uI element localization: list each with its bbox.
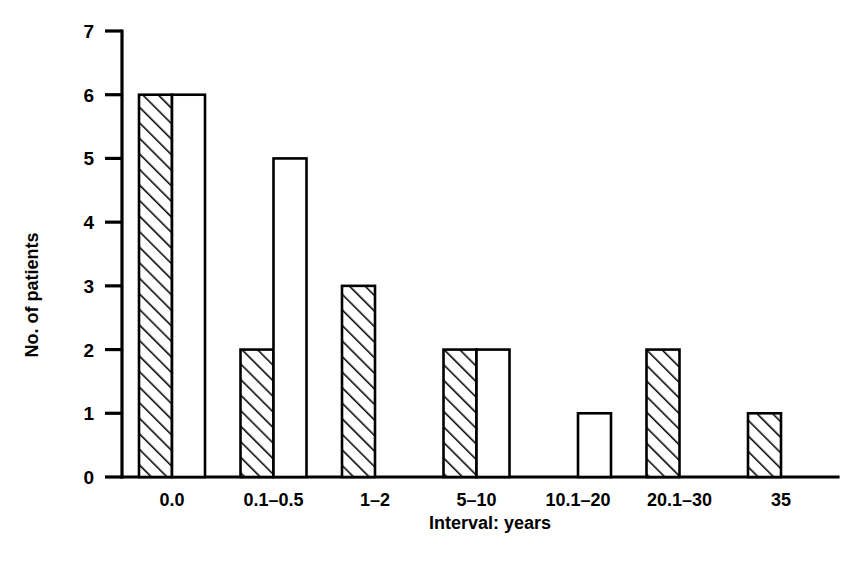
- bar-hatched: [748, 413, 781, 477]
- bar-open: [172, 95, 205, 477]
- x-tick-label: 1–2: [360, 490, 390, 510]
- y-tick-label: 3: [83, 276, 94, 297]
- bar-hatched: [647, 350, 680, 477]
- y-axis-tick-labels: 01234567: [83, 21, 94, 488]
- bar-hatched: [444, 350, 477, 477]
- y-tick-label: 7: [83, 21, 94, 42]
- chart-figure: 01234567 0.00.1–0.51–25–1010.1–2020.1–30…: [0, 0, 860, 561]
- y-tick-label: 4: [83, 212, 94, 233]
- y-tick-label: 5: [83, 148, 94, 169]
- bar-open: [578, 413, 611, 477]
- x-tick-label: 20.1–30: [647, 490, 712, 510]
- y-axis-ticks: [105, 31, 122, 477]
- bar-hatched: [139, 95, 172, 477]
- x-tick-label: 35: [771, 490, 791, 510]
- y-tick-label: 0: [83, 467, 94, 488]
- bars-layer: [139, 95, 781, 477]
- bar-hatched: [342, 286, 375, 477]
- bar-chart-canvas: 01234567 0.00.1–0.51–25–1010.1–2020.1–30…: [0, 0, 860, 561]
- bar-hatched: [241, 350, 274, 477]
- x-tick-label: 10.1–20: [545, 490, 610, 510]
- x-axis-tick-labels: 0.00.1–0.51–25–1010.1–2020.1–3035: [159, 490, 791, 510]
- x-axis-title: Interval: years: [429, 513, 551, 533]
- y-tick-label: 2: [83, 340, 94, 361]
- x-tick-label: 0.0: [159, 490, 184, 510]
- bar-open: [477, 350, 510, 477]
- y-axis-title: No. of patients: [22, 233, 42, 358]
- y-tick-label: 1: [83, 403, 94, 424]
- bar-open: [274, 158, 307, 477]
- y-tick-label: 6: [83, 85, 94, 106]
- x-tick-label: 0.1–0.5: [243, 490, 303, 510]
- x-tick-label: 5–10: [456, 490, 496, 510]
